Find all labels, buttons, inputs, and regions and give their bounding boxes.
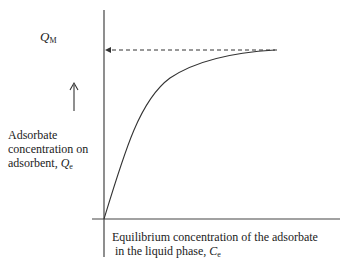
arrow-head-icon [105,47,111,53]
x-axis-label: Equilibrium concentration of the adsorba… [112,230,318,262]
y-axis-label: Adsorbate concentration on adsorbent, Qe [8,128,88,174]
isotherm-curve [104,50,275,219]
qm-label: QM [40,30,57,48]
